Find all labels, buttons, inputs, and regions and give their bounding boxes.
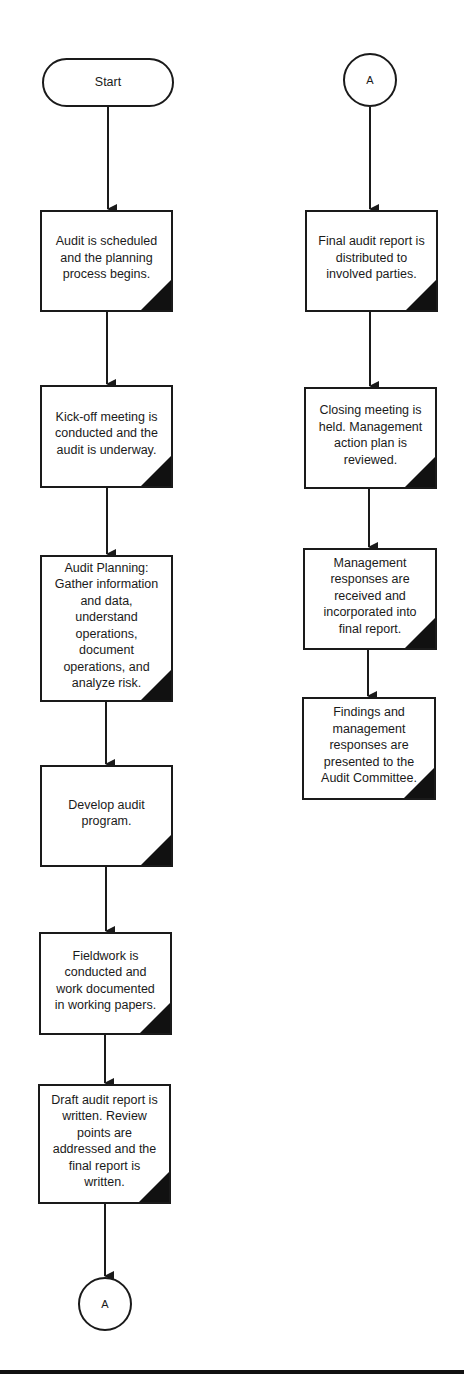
start-terminal: Start — [42, 58, 174, 107]
step-label: Draft audit report is written. Review po… — [50, 1092, 159, 1191]
step-label: Audit Planning: Gather information and d… — [52, 560, 161, 692]
off-page-connector-a-out: A — [78, 1277, 132, 1331]
process-step-management-responses: Management responses are received and in… — [303, 548, 437, 650]
process-step-kickoff: Kick-off meeting is conducted and the au… — [40, 385, 173, 488]
step-label: Closing meeting is held. Management acti… — [316, 402, 425, 468]
off-page-connector-a-in: A — [343, 53, 397, 107]
process-step-scheduled: Audit is scheduled and the planning proc… — [40, 210, 173, 312]
step-label: Audit is scheduled and the planning proc… — [52, 233, 161, 283]
step-label: Management responses are received and in… — [315, 555, 425, 638]
start-label: Start — [95, 74, 121, 91]
step-label: Findings and management responses are pr… — [314, 704, 424, 787]
process-step-draft-report: Draft audit report is written. Review po… — [38, 1084, 171, 1204]
process-step-closing-meeting: Closing meeting is held. Management acti… — [304, 387, 437, 489]
process-step-audit-committee: Findings and management responses are pr… — [302, 697, 436, 800]
document-corner-icon — [140, 834, 172, 866]
connector-label: A — [101, 1296, 108, 1313]
process-step-distribute-report: Final audit report is distributed to inv… — [305, 210, 438, 312]
step-label: Final audit report is distributed to inv… — [317, 233, 426, 283]
step-label: Kick-off meeting is conducted and the au… — [52, 409, 161, 459]
document-corner-icon — [140, 279, 172, 311]
process-step-develop-program: Develop audit program. — [40, 765, 173, 867]
process-step-planning: Audit Planning: Gather information and d… — [40, 555, 173, 702]
document-corner-icon — [405, 279, 437, 311]
step-label: Develop audit program. — [52, 797, 161, 830]
bottom-divider — [0, 1370, 464, 1374]
process-step-fieldwork: Fieldwork is conducted and work document… — [39, 932, 172, 1035]
connector-label: A — [366, 72, 373, 89]
document-corner-icon — [140, 455, 172, 487]
step-label: Fieldwork is conducted and work document… — [51, 948, 160, 1014]
